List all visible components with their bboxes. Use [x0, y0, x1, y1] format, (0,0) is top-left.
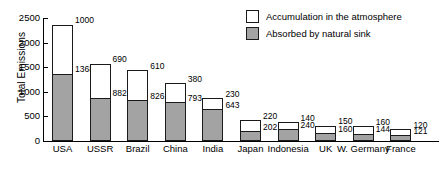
- y-axis-tick-labels: 05001000150020002500: [12, 18, 40, 141]
- bar-value-label-accumulation: 690: [113, 55, 127, 64]
- bar-segment-accumulation[interactable]: [52, 25, 73, 74]
- y-axis-tick-mark: [44, 116, 48, 117]
- bar-value-label-absorbed: 643: [225, 101, 239, 110]
- legend-label: Absorbed by natural sink: [266, 29, 371, 39]
- bar-segment-absorbed[interactable]: [202, 109, 223, 141]
- bar-value-label-absorbed: 882: [113, 89, 127, 98]
- y-axis-tick-label: 1500: [19, 62, 40, 72]
- legend-item[interactable]: Accumulation in the atmosphere: [246, 9, 402, 24]
- bar-segment-accumulation[interactable]: [278, 122, 299, 129]
- y-axis-tick-label: 1000: [19, 87, 40, 97]
- y-axis-tick-label: 0: [35, 136, 40, 146]
- bar-segment-absorbed[interactable]: [278, 129, 299, 141]
- x-axis-category-label: Japan: [238, 144, 264, 154]
- bar-segment-accumulation[interactable]: [127, 70, 148, 100]
- bar-group[interactable]: 10001368USA: [52, 18, 73, 141]
- bar-segment-absorbed[interactable]: [90, 98, 111, 141]
- bar-segment-absorbed[interactable]: [315, 133, 336, 141]
- y-axis-tick-mark: [44, 43, 48, 44]
- bar-value-label-accumulation: 380: [188, 75, 202, 84]
- x-axis-category-label: UK: [319, 144, 332, 154]
- bar-value-label-absorbed: 144: [376, 125, 390, 134]
- bar-stack[interactable]: 10001368: [52, 25, 73, 141]
- bar-group[interactable]: 690882USSR: [90, 18, 111, 141]
- bar-segment-absorbed[interactable]: [52, 74, 73, 141]
- x-axis-category-label: China: [163, 144, 188, 154]
- bar-value-label-absorbed: 793: [188, 93, 202, 102]
- bar-segment-absorbed[interactable]: [353, 134, 374, 141]
- x-axis-category-label: USSR: [87, 144, 113, 154]
- y-axis-tick-label: 500: [24, 112, 40, 122]
- y-axis-tick-mark: [44, 18, 48, 19]
- bar-segment-accumulation[interactable]: [165, 83, 186, 102]
- bar-segment-accumulation[interactable]: [353, 126, 374, 134]
- y-axis-tick-label: 2000: [19, 38, 40, 48]
- bar-value-label-accumulation: 220: [263, 112, 277, 121]
- bar-stack[interactable]: 140240: [278, 122, 299, 141]
- legend-swatch-icon: [246, 27, 259, 40]
- x-axis-category-label: India: [203, 144, 224, 154]
- bar-segment-accumulation[interactable]: [315, 126, 336, 133]
- bar-stack[interactable]: 160144: [353, 126, 374, 141]
- y-axis-tick-mark: [44, 67, 48, 68]
- bar-stack[interactable]: 220202: [240, 120, 261, 141]
- x-axis-category-label: USA: [53, 144, 73, 154]
- x-axis-line: [43, 141, 439, 142]
- legend-label: Accumulation in the atmosphere: [266, 12, 402, 22]
- bar-value-label-absorbed: 160: [338, 124, 352, 133]
- bar-value-label-absorbed: 826: [150, 92, 164, 101]
- bar-value-label-absorbed: 121: [413, 126, 427, 135]
- bar-group[interactable]: 230643India: [202, 18, 223, 141]
- legend-swatch-icon: [246, 10, 259, 23]
- bar-segment-absorbed[interactable]: [390, 135, 411, 141]
- x-axis-category-label: W. Germany: [337, 144, 390, 154]
- x-axis-category-label: Indonesia: [267, 144, 308, 154]
- y-axis-tick-mark: [44, 92, 48, 93]
- bar-segment-absorbed[interactable]: [127, 100, 148, 141]
- bar-group[interactable]: 380793China: [165, 18, 186, 141]
- bar-segment-accumulation[interactable]: [240, 120, 261, 131]
- y-axis-tick-mark: [44, 141, 48, 142]
- bar-stack[interactable]: 150160: [315, 126, 336, 141]
- y-axis-tick-label: 2500: [19, 13, 40, 23]
- bar-segment-accumulation[interactable]: [202, 98, 223, 109]
- bar-stack[interactable]: 380793: [165, 83, 186, 141]
- bar-value-label-accumulation: 610: [150, 62, 164, 71]
- chart-legend: Accumulation in the atmosphereAbsorbed b…: [246, 9, 402, 43]
- bar-segment-absorbed[interactable]: [240, 131, 261, 141]
- bar-value-label-absorbed: 240: [301, 120, 315, 129]
- bar-stack[interactable]: 120121: [390, 129, 411, 141]
- x-axis-category-label: France: [386, 144, 416, 154]
- bar-segment-absorbed[interactable]: [165, 102, 186, 141]
- bar-stack[interactable]: 230643: [202, 98, 223, 141]
- emissions-bar-chart: Total Emissions 05001000150020002500 100…: [0, 0, 442, 172]
- bar-stack[interactable]: 610826: [127, 70, 148, 141]
- legend-item[interactable]: Absorbed by natural sink: [246, 26, 402, 41]
- bar-segment-accumulation[interactable]: [90, 64, 111, 98]
- bar-stack[interactable]: 690882: [90, 64, 111, 141]
- bar-value-label-accumulation: 230: [225, 89, 239, 98]
- x-axis-category-label: Brazil: [126, 144, 150, 154]
- bar-group[interactable]: 610826Brazil: [127, 18, 148, 141]
- bar-value-label-absorbed: 202: [263, 122, 277, 131]
